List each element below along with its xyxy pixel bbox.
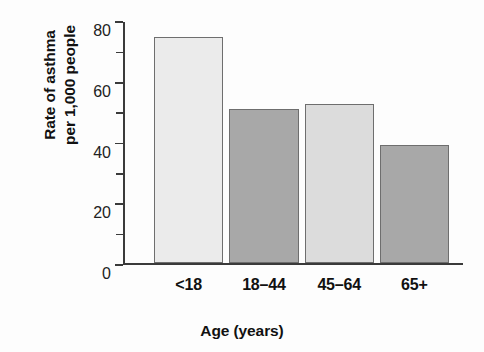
y-axis-tick-major: [115, 21, 123, 23]
y-axis-tick-major: [115, 82, 123, 84]
x-axis-tick-label: <18: [154, 276, 223, 294]
y-axis-title-line-1: Rate of asthma: [40, 25, 60, 145]
bar-group: [154, 22, 455, 263]
x-axis-line: [123, 263, 463, 265]
x-axis-tick-label: 18–44: [229, 276, 298, 294]
y-axis-tick-minor: [116, 112, 123, 114]
y-axis-tick-major: [115, 143, 123, 145]
bar: [154, 37, 223, 263]
y-axis-tick-minor: [116, 173, 123, 175]
bar: [380, 145, 449, 263]
x-axis-tick-label: 65+: [380, 276, 449, 294]
bar: [229, 109, 298, 264]
y-axis-title: Rate of asthma per 1,000 people: [30, 0, 90, 205]
y-axis-tick-major: [115, 264, 123, 266]
y-axis-tick-major: [115, 203, 123, 205]
plot-area: 020406080: [123, 22, 463, 265]
y-axis-title-line-2: per 1,000 people: [60, 25, 80, 145]
bar: [305, 104, 374, 263]
y-axis-tick-minor: [116, 52, 123, 54]
y-axis-tick-minor: [116, 234, 123, 236]
x-axis-title: Age (years): [0, 322, 484, 340]
y-axis-line: [123, 22, 125, 265]
x-axis-tick-label: 45–64: [305, 276, 374, 294]
bar-chart-figure: Rate of asthma per 1,000 people 02040608…: [0, 0, 484, 352]
